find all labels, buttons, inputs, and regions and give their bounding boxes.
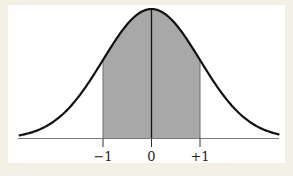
figure-frame: −10+1 bbox=[0, 0, 293, 176]
x-axis-tick-labels: −10+1 bbox=[93, 149, 209, 164]
tick-label: −1 bbox=[93, 149, 112, 164]
tick-label: 0 bbox=[147, 149, 155, 164]
tick-label: +1 bbox=[190, 149, 209, 164]
bell-curve-chart: −10+1 bbox=[0, 0, 293, 176]
x-axis-ticks bbox=[103, 139, 200, 148]
